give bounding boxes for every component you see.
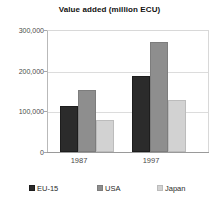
legend-swatch-icon-eu15 (29, 185, 35, 191)
y-axis: 300,000 200,000 100,000 0 (0, 0, 44, 211)
legend-label-japan: Japan (165, 184, 185, 193)
y-tick-label-100000: 100,000 (0, 108, 44, 115)
legend-swatch-icon-japan (157, 185, 163, 191)
bar-1997-eu15[interactable] (132, 76, 150, 152)
legend-item-japan[interactable]: Japan (157, 184, 185, 193)
plot-area (47, 30, 209, 152)
legend-item-usa[interactable]: USA (97, 184, 120, 193)
y-tick-label-300000: 300,000 (0, 27, 44, 34)
bar-1997-japan[interactable] (168, 100, 186, 152)
x-axis-baseline (47, 152, 209, 153)
chart-legend: EU-15 USA Japan (0, 181, 219, 195)
bar-1987-usa[interactable] (78, 90, 96, 152)
x-tick-label-1997: 1997 (121, 156, 181, 165)
y-tick-label-200000: 200,000 (0, 67, 44, 74)
legend-label-usa: USA (105, 184, 120, 193)
legend-label-eu15: EU-15 (37, 184, 58, 193)
x-tick-label-1987: 1987 (49, 156, 109, 165)
legend-item-eu15[interactable]: EU-15 (29, 184, 58, 193)
legend-swatch-icon-usa (97, 185, 103, 191)
bar-chart-figure: Value added (million ECU) 300,000 200,00… (0, 0, 219, 211)
bar-group-1997 (132, 31, 186, 152)
y-tick-label-0: 0 (0, 149, 44, 156)
bar-1997-usa[interactable] (150, 42, 168, 152)
bar-group-1987 (60, 31, 114, 152)
bar-1987-japan[interactable] (96, 120, 114, 152)
bar-1987-eu15[interactable] (60, 106, 78, 152)
